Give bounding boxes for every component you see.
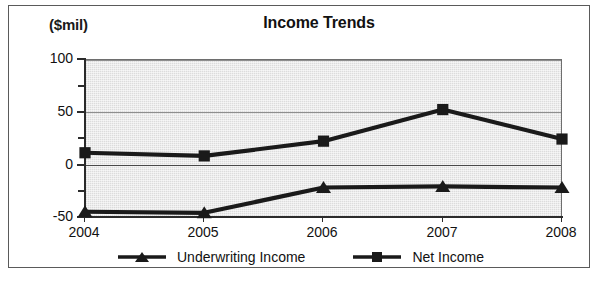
y-tick-25 bbox=[78, 137, 85, 139]
legend-item-underwriting-income[interactable]: Underwriting Income bbox=[116, 249, 305, 265]
x-label-2004: 2004 bbox=[54, 224, 114, 240]
x-tick-2007 bbox=[442, 217, 443, 222]
y-label-0: 0 bbox=[29, 156, 73, 172]
x-tick-2006 bbox=[322, 217, 323, 222]
y-label-50: 50 bbox=[29, 103, 73, 119]
x-tick-2008 bbox=[561, 217, 562, 222]
y-label-100: 100 bbox=[29, 50, 73, 66]
y-tick-0 bbox=[77, 164, 85, 166]
x-axis-line bbox=[84, 216, 563, 218]
chart-title: Income Trends bbox=[169, 14, 469, 32]
x-label-2007: 2007 bbox=[412, 224, 472, 240]
legend-label-net-income: Net Income bbox=[412, 249, 484, 265]
x-label-2006: 2006 bbox=[292, 224, 352, 240]
y-label-minus50: -50 bbox=[29, 208, 73, 224]
chart-figure: ($mil) Income Trends 100 50 0 -50 2004 2… bbox=[8, 5, 590, 268]
y-tick-75 bbox=[78, 85, 85, 87]
chart-legend: Underwriting Income Net Income bbox=[9, 246, 591, 268]
y-tick-minus25 bbox=[78, 190, 85, 192]
gridline-100 bbox=[85, 60, 561, 61]
x-label-2005: 2005 bbox=[173, 224, 233, 240]
legend-item-net-income[interactable]: Net Income bbox=[351, 249, 484, 265]
plot-area bbox=[85, 59, 562, 217]
x-tick-2005 bbox=[203, 217, 204, 222]
square-marker-icon bbox=[351, 250, 403, 264]
y-tick-50 bbox=[77, 111, 85, 113]
x-tick-2004 bbox=[84, 217, 85, 222]
triangle-marker-icon bbox=[116, 250, 168, 264]
x-label-2008: 2008 bbox=[531, 224, 591, 240]
y-tick-100 bbox=[77, 58, 85, 60]
legend-label-underwriting-income: Underwriting Income bbox=[177, 249, 305, 265]
y-axis-labels: 100 50 0 -50 bbox=[21, 6, 73, 282]
gridline-50 bbox=[85, 112, 561, 113]
gridline-0 bbox=[85, 165, 561, 166]
